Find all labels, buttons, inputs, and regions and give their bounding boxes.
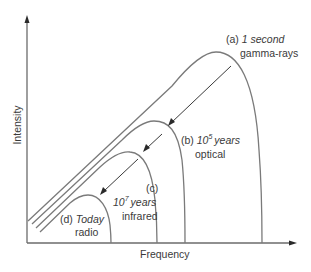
arrow-a-to-b [171,66,231,123]
arrow-c-to-d [104,159,138,191]
y-axis-arrowhead-icon [25,15,30,23]
label-b-band: optical [195,148,225,160]
spectrum-diagram: (a) 1 second gamma-rays (b) 105years opt… [0,0,311,272]
label-d-band: radio [75,226,99,238]
label-c-band: infrared [122,210,158,222]
label-b-line1: (b) 105years [181,133,241,146]
y-axis-label: Intensity [11,105,23,145]
label-c-prefix: (c) [146,182,158,194]
curve-b-optical [32,121,185,243]
arrow-b-to-c [147,134,162,148]
cooling-arrows [100,66,231,195]
label-a-line1: (a) 1 second [226,33,286,45]
arrow-b-to-c-head-icon [143,144,150,152]
arrow-a-to-b-head-icon [168,118,175,126]
curve-labels: (a) 1 second gamma-rays (b) 105years opt… [60,33,298,238]
arrow-c-to-d-head-icon [100,187,107,195]
label-c-line2: 107years [113,195,157,208]
label-d-line1: (d) Today [60,213,105,225]
x-axis-label: Frequency [140,248,190,260]
label-a-band: gamma-rays [240,47,298,59]
x-axis-arrowhead-icon [289,241,297,246]
